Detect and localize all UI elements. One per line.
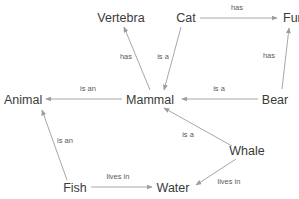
knowledge-graph-diagram: hasis ahashasis ais anis alives inis anl… xyxy=(0,0,299,199)
edge-label-cat-has-fur: has xyxy=(231,3,243,12)
node-mammal[interactable]: Mammal xyxy=(126,93,174,107)
node-fish[interactable]: Fish xyxy=(63,181,87,195)
nodes-layer: VertebraCatFurAnimalMammalBearWhaleFishW… xyxy=(4,11,299,195)
node-fur[interactable]: Fur xyxy=(283,11,299,25)
edge-label-fish-livesin-water: lives in xyxy=(107,172,130,181)
edge-fish-isan-animal xyxy=(42,110,67,180)
graph-canvas: hasis ahashasis ais anis alives inis anl… xyxy=(0,0,299,199)
edge-label-whale-livesin-water: lives in xyxy=(218,177,241,186)
node-cat[interactable]: Cat xyxy=(176,11,196,25)
edge-label-whale-isa-mammal: is a xyxy=(182,130,195,139)
edge-label-fish-isan-animal: is an xyxy=(57,136,73,145)
edge-bear-has-fur xyxy=(282,28,289,89)
edge-label-mammal-isan-animal: is an xyxy=(80,84,96,93)
node-vertebra[interactable]: Vertebra xyxy=(97,11,144,25)
edge-whale-isa-mammal xyxy=(164,108,232,146)
edge-label-mammal-has-vertebra: has xyxy=(120,52,132,61)
node-animal[interactable]: Animal xyxy=(4,93,42,107)
edge-label-bear-has-fur: has xyxy=(263,51,275,60)
node-water[interactable]: Water xyxy=(157,181,190,195)
node-whale[interactable]: Whale xyxy=(229,144,264,158)
node-bear[interactable]: Bear xyxy=(262,93,288,107)
edge-label-cat-isa-mammal: is a xyxy=(157,52,170,61)
edge-label-bear-isa-mammal: is a xyxy=(213,84,226,93)
